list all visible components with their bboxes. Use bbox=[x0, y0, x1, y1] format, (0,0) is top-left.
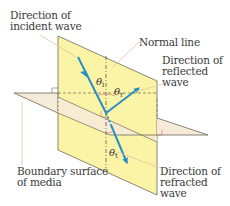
reflected-label-line3: wave bbox=[162, 77, 223, 88]
refracted-label-line3: wave bbox=[160, 188, 221, 199]
boundary-label-line2: of media bbox=[17, 177, 108, 188]
reflected-wave-label: Direction of reflected wave bbox=[162, 55, 223, 88]
refracted-wave-label: Direction of refracted wave bbox=[160, 166, 221, 199]
incident-wave-label: Direction of incident wave bbox=[10, 10, 81, 32]
theta-subscript: t bbox=[115, 152, 118, 160]
leader-normal bbox=[112, 42, 139, 68]
theta-subscript: i bbox=[102, 81, 104, 89]
incident-label-line2: incident wave bbox=[10, 21, 81, 32]
angle-refraction-label: θt bbox=[109, 147, 118, 160]
angle-reflection-label: θr bbox=[114, 86, 123, 99]
normal-line-label: Normal line bbox=[139, 37, 200, 48]
angle-incidence-label: θi bbox=[96, 76, 104, 89]
reflection-refraction-diagram: Direction of incident wave Normal line D… bbox=[0, 0, 230, 206]
theta-subscript: r bbox=[120, 91, 123, 99]
boundary-surface-label: Boundary surface of media bbox=[17, 166, 108, 188]
